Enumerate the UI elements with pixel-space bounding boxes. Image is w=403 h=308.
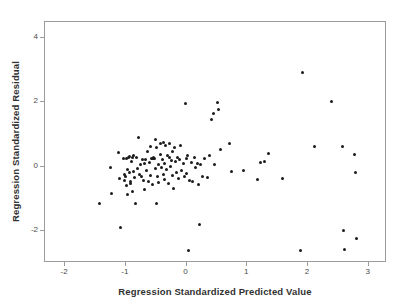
x-tick-label: 3 [358, 267, 378, 276]
x-tick-label: -2 [54, 267, 74, 276]
y-tick-mark [40, 37, 44, 38]
x-tick-mark [246, 262, 247, 266]
x-axis-title: Regression Standardized Predicted Value [44, 286, 386, 297]
plot-area-frame [44, 21, 386, 262]
y-tick-mark [40, 101, 44, 102]
x-tick-label: 1 [236, 267, 256, 276]
y-axis-title: Regression Standardized Residual [9, 21, 23, 262]
scatter-plot-figure: Regression Standardized Residual -2-1012… [0, 0, 403, 308]
y-tick-label: -2 [22, 225, 38, 234]
x-tick-mark [125, 262, 126, 266]
y-tick-label: 2 [22, 96, 38, 105]
x-tick-mark [368, 262, 369, 266]
y-tick-label: 0 [22, 161, 38, 170]
y-tick-mark [40, 166, 44, 167]
x-tick-label: 0 [176, 267, 196, 276]
x-tick-label: -1 [115, 267, 135, 276]
y-tick-label: 4 [22, 32, 38, 41]
x-tick-mark [307, 262, 308, 266]
x-tick-mark [186, 262, 187, 266]
x-tick-mark [64, 262, 65, 266]
x-tick-label: 2 [297, 267, 317, 276]
y-tick-mark [40, 230, 44, 231]
